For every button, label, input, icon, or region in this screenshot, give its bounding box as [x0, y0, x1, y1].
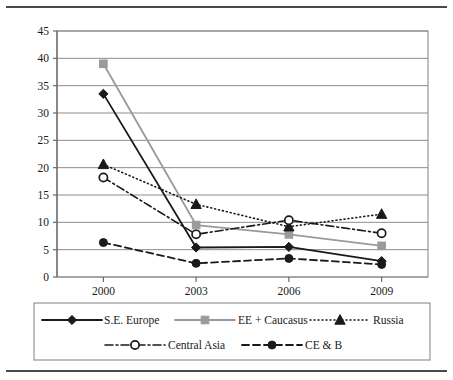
y-tick-label-35: 35 — [38, 80, 50, 92]
series-markers-s-e-europe — [99, 89, 386, 265]
y-tick-label-40: 40 — [38, 52, 50, 64]
data-point-marker-triangle — [98, 159, 108, 169]
x-tick-label-2003: 2003 — [185, 285, 208, 297]
legend-box — [34, 303, 430, 360]
y-tick-label-10: 10 — [38, 216, 50, 228]
x-tick-label-2006: 2006 — [277, 285, 300, 297]
x-tick-label-2000: 2000 — [92, 285, 115, 297]
legend-label-ee-caucasus: EE + Caucasus — [238, 314, 308, 326]
series-line-s-e-europe — [103, 94, 381, 261]
series-line-ee-caucasus — [103, 64, 381, 246]
y-tick-label-5: 5 — [43, 244, 49, 256]
series-markers-central-asia — [99, 173, 385, 238]
data-point-marker-circle-open — [192, 230, 200, 238]
figure-container: 051015202530354045 2000200320062009 S.E.… — [0, 0, 453, 380]
data-point-marker-diamond — [192, 243, 201, 252]
plot-area-border — [57, 31, 428, 277]
data-point-marker-circle-filled — [268, 341, 276, 349]
series-markers-group — [98, 60, 387, 268]
series-line-russia — [103, 164, 381, 226]
legend-label-s-e-europe: S.E. Europe — [104, 314, 159, 327]
data-point-marker-circle-filled — [99, 239, 107, 247]
gridlines — [57, 31, 428, 277]
data-point-marker-circle-open — [285, 216, 293, 224]
data-point-marker-triangle — [376, 209, 386, 219]
legend-label-ce-b: CE & B — [305, 339, 342, 351]
series-line-ce-b — [103, 243, 381, 265]
data-point-marker-circle-filled — [285, 254, 293, 262]
legend-label-central-asia: Central Asia — [168, 339, 225, 351]
y-tick-label-0: 0 — [43, 271, 49, 283]
data-point-marker-square — [100, 60, 108, 68]
series-lines-group — [103, 64, 381, 265]
data-point-marker-circle-open — [378, 229, 386, 237]
data-point-marker-circle-open — [131, 341, 139, 349]
data-point-marker-circle-filled — [192, 259, 200, 267]
line-chart: 051015202530354045 2000200320062009 S.E.… — [0, 0, 453, 380]
data-point-marker-square — [201, 316, 209, 324]
data-point-marker-circle-filled — [378, 260, 386, 268]
data-point-marker-square — [285, 231, 293, 239]
data-point-marker-square — [192, 221, 200, 229]
series-line-central-asia — [103, 178, 381, 235]
data-point-marker-square — [378, 242, 386, 250]
y-axis: 051015202530354045 — [38, 25, 58, 283]
data-point-marker-circle-open — [99, 173, 107, 181]
series-markers-ee-caucasus — [100, 60, 386, 250]
x-axis: 2000200320062009 — [92, 277, 394, 297]
y-tick-label-20: 20 — [38, 162, 50, 174]
y-tick-label-45: 45 — [38, 25, 50, 37]
y-tick-label-15: 15 — [38, 189, 50, 201]
x-tick-label-2009: 2009 — [370, 285, 393, 297]
series-markers-ce-b — [99, 239, 385, 269]
plot-frame — [57, 31, 428, 277]
y-tick-label-30: 30 — [38, 107, 50, 119]
legend-border — [34, 303, 430, 360]
data-point-marker-diamond — [99, 89, 108, 98]
data-point-marker-triangle — [191, 199, 201, 209]
legend-label-russia: Russia — [373, 314, 404, 326]
y-tick-label-25: 25 — [38, 134, 50, 146]
